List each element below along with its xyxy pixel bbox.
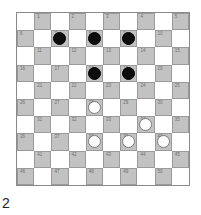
square-number: 45 xyxy=(175,153,180,158)
square-24[interactable]: 24 xyxy=(137,82,154,99)
square-14[interactable]: 14 xyxy=(137,47,154,64)
light-square xyxy=(69,99,86,116)
square-28[interactable]: 28 xyxy=(86,99,103,116)
light-square xyxy=(34,65,51,82)
square-39[interactable]: 39 xyxy=(120,133,137,150)
white-piece-icon[interactable] xyxy=(88,101,101,114)
square-25[interactable]: 25 xyxy=(172,82,189,99)
square-48[interactable]: 48 xyxy=(86,168,103,185)
square-11[interactable]: 11 xyxy=(34,47,51,64)
light-square xyxy=(137,30,154,47)
square-number: 21 xyxy=(37,84,42,89)
square-18[interactable]: 18 xyxy=(86,65,103,82)
square-8[interactable]: 8 xyxy=(86,30,103,47)
square-45[interactable]: 45 xyxy=(172,151,189,168)
square-46[interactable]: 46 xyxy=(17,168,34,185)
square-49[interactable]: 49 xyxy=(120,168,137,185)
light-square xyxy=(17,151,34,168)
light-square xyxy=(34,30,51,47)
square-42[interactable]: 42 xyxy=(69,151,86,168)
square-9[interactable]: 9 xyxy=(120,30,137,47)
square-34[interactable]: 34 xyxy=(137,116,154,133)
square-number: 25 xyxy=(175,84,180,89)
light-square xyxy=(137,65,154,82)
square-10[interactable]: 10 xyxy=(155,30,172,47)
square-number: 20 xyxy=(158,67,163,72)
square-number: 42 xyxy=(72,153,77,158)
light-square xyxy=(103,133,120,150)
square-31[interactable]: 31 xyxy=(34,116,51,133)
square-47[interactable]: 47 xyxy=(51,168,68,185)
square-44[interactable]: 44 xyxy=(137,151,154,168)
black-piece-icon[interactable] xyxy=(88,67,101,80)
square-37[interactable]: 37 xyxy=(51,133,68,150)
light-square xyxy=(17,13,34,30)
square-38[interactable]: 38 xyxy=(86,133,103,150)
square-number: 12 xyxy=(72,49,77,54)
white-piece-icon[interactable] xyxy=(139,118,152,131)
square-26[interactable]: 26 xyxy=(17,99,34,116)
square-16[interactable]: 16 xyxy=(17,65,34,82)
square-22[interactable]: 22 xyxy=(69,82,86,99)
square-23[interactable]: 23 xyxy=(103,82,120,99)
light-square xyxy=(51,47,68,64)
square-21[interactable]: 21 xyxy=(34,82,51,99)
square-35[interactable]: 35 xyxy=(172,116,189,133)
square-30[interactable]: 30 xyxy=(155,99,172,116)
square-number: 46 xyxy=(20,170,25,175)
square-number: 23 xyxy=(106,84,111,89)
square-27[interactable]: 27 xyxy=(51,99,68,116)
square-number: 22 xyxy=(72,84,77,89)
square-number: 11 xyxy=(37,49,42,54)
light-square xyxy=(103,99,120,116)
black-piece-icon[interactable] xyxy=(88,32,101,45)
square-36[interactable]: 36 xyxy=(17,133,34,150)
white-piece-icon[interactable] xyxy=(157,135,170,148)
square-number: 41 xyxy=(37,153,42,158)
draughts-board: 1234567891011121314151617181920212223242… xyxy=(16,12,190,186)
diagram-label: 2 xyxy=(2,196,10,210)
square-41[interactable]: 41 xyxy=(34,151,51,168)
square-17[interactable]: 17 xyxy=(51,65,68,82)
white-piece-icon[interactable] xyxy=(122,135,135,148)
light-square xyxy=(69,133,86,150)
square-33[interactable]: 33 xyxy=(103,116,120,133)
square-15[interactable]: 15 xyxy=(172,47,189,64)
square-number: 10 xyxy=(158,32,163,37)
square-43[interactable]: 43 xyxy=(103,151,120,168)
light-square xyxy=(103,65,120,82)
black-piece-icon[interactable] xyxy=(53,32,66,45)
square-1[interactable]: 1 xyxy=(34,13,51,30)
square-13[interactable]: 13 xyxy=(103,47,120,64)
square-12[interactable]: 12 xyxy=(69,47,86,64)
square-4[interactable]: 4 xyxy=(137,13,154,30)
white-piece-icon[interactable] xyxy=(88,135,101,148)
light-square xyxy=(172,168,189,185)
square-3[interactable]: 3 xyxy=(103,13,120,30)
square-5[interactable]: 5 xyxy=(172,13,189,30)
light-square xyxy=(86,47,103,64)
square-number: 4 xyxy=(140,15,143,20)
square-40[interactable]: 40 xyxy=(155,133,172,150)
square-50[interactable]: 50 xyxy=(155,168,172,185)
square-29[interactable]: 29 xyxy=(120,99,137,116)
square-19[interactable]: 19 xyxy=(120,65,137,82)
light-square xyxy=(155,151,172,168)
square-number: 50 xyxy=(158,170,163,175)
light-square xyxy=(86,116,103,133)
light-square xyxy=(120,151,137,168)
light-square xyxy=(172,65,189,82)
black-piece-icon[interactable] xyxy=(122,32,135,45)
square-6[interactable]: 6 xyxy=(17,30,34,47)
black-piece-icon[interactable] xyxy=(122,67,135,80)
light-square xyxy=(86,151,103,168)
square-20[interactable]: 20 xyxy=(155,65,172,82)
square-2[interactable]: 2 xyxy=(69,13,86,30)
light-square xyxy=(51,116,68,133)
square-number: 49 xyxy=(123,170,128,175)
square-number: 36 xyxy=(20,135,25,140)
light-square xyxy=(120,47,137,64)
square-32[interactable]: 32 xyxy=(69,116,86,133)
light-square xyxy=(34,99,51,116)
square-7[interactable]: 7 xyxy=(51,30,68,47)
